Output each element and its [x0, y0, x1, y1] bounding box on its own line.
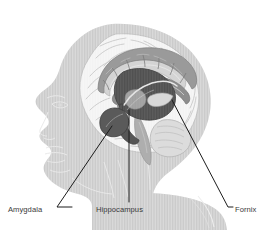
thalamus-region: [125, 90, 146, 110]
limbic-system-figure: [0, 0, 267, 230]
diagram-page: Amygdala Hippocampus Fornix: [0, 0, 267, 230]
amygdala: [100, 108, 129, 137]
label-amygdala: Amygdala: [8, 205, 42, 214]
label-fornix: Fornix: [235, 205, 256, 214]
label-hippocampus: Hippocampus: [96, 205, 143, 214]
